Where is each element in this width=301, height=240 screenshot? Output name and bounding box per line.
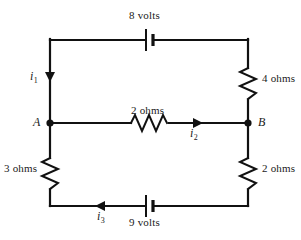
label-node-b: B — [258, 116, 266, 128]
current-i1-symbol: i — [30, 69, 34, 83]
label-battery-bottom-value: 9 volts — [129, 216, 160, 228]
node-dot-a — [46, 119, 53, 126]
label-resistor-middle-2ohm: 2 ohms — [131, 104, 164, 116]
label-resistor-3ohm: 3 ohms — [4, 162, 37, 174]
current-i2-subscript: 2 — [194, 133, 198, 142]
resistor-middle-zigzag — [131, 115, 167, 131]
label-current-i3: i3 — [97, 210, 105, 224]
current-i3-symbol: i — [97, 209, 101, 223]
label-resistor-2ohm-right: 2 ohms — [262, 162, 295, 174]
label-battery-top-value: 8 volts — [129, 9, 160, 21]
label-current-i1: i1 — [30, 70, 38, 84]
current-i3-subscript: 3 — [101, 216, 105, 225]
battery-top-symbol — [146, 29, 153, 51]
current-i2-symbol: i — [190, 126, 194, 140]
label-node-a: A — [33, 116, 41, 128]
battery-bottom-symbol — [146, 195, 153, 217]
resistor-4ohm-zigzag — [240, 68, 256, 99]
circuit-diagram-canvas: 8 volts 4 ohms 2 ohms 3 ohms 2 ohms 9 vo… — [0, 0, 301, 240]
resistor-2ohm-right-zigzag — [240, 158, 256, 189]
current-i1-arrowhead — [45, 72, 55, 82]
circuit-schematic-svg — [0, 0, 301, 240]
label-resistor-4ohm: 4 ohms — [262, 72, 295, 84]
label-current-i2: i2 — [190, 127, 198, 141]
resistor-3ohm-zigzag — [42, 158, 58, 189]
current-i1-subscript: 1 — [34, 76, 38, 85]
node-dot-b — [244, 119, 251, 126]
